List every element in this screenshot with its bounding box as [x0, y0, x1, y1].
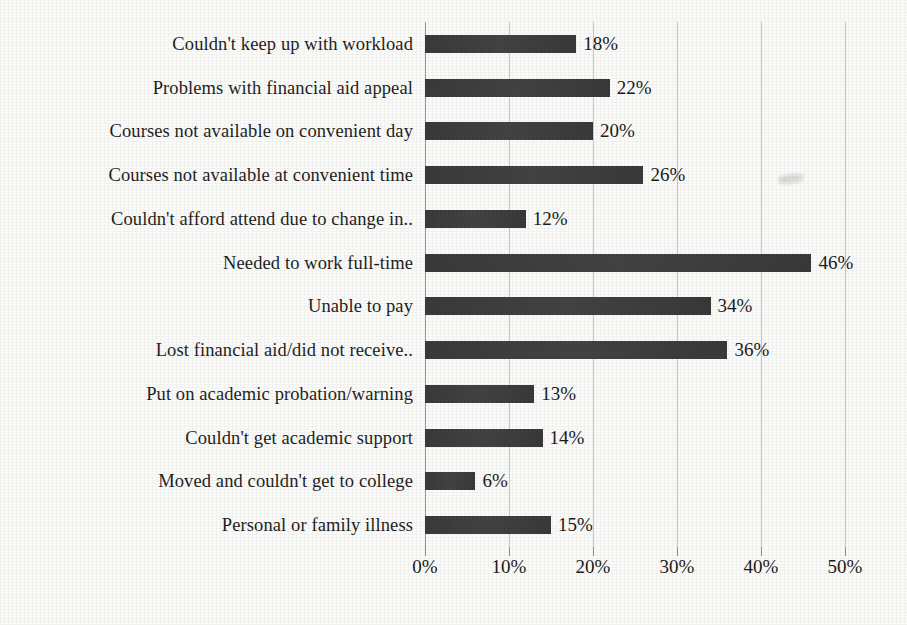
chart-figure: Couldn't keep up with workload18%Problem…: [0, 0, 907, 625]
bar-container: 34%: [425, 285, 752, 329]
x-tick-label: 40%: [744, 556, 779, 578]
bar-rows: Couldn't keep up with workload18%Problem…: [0, 22, 907, 547]
bar: [425, 297, 711, 315]
bar-row: Unable to pay34%: [0, 285, 907, 329]
bar-row: Couldn't get academic support14%: [0, 416, 907, 460]
bar: [425, 472, 475, 490]
bar: [425, 166, 643, 184]
x-tick-label: 20%: [576, 556, 611, 578]
bar-value-label: 36%: [734, 339, 769, 361]
bar-container: 18%: [425, 22, 618, 66]
tick-mark-10: [509, 547, 510, 556]
bar: [425, 254, 811, 272]
bar-row: Lost financial aid/did not receive..36%: [0, 328, 907, 372]
tick-mark-40: [761, 547, 762, 556]
bar: [425, 79, 610, 97]
category-label: Needed to work full-time: [0, 253, 413, 273]
x-tick-label: 50%: [828, 556, 863, 578]
tick-mark-50: [845, 547, 846, 556]
bar-row: Courses not available on convenient day2…: [0, 110, 907, 154]
category-label: Couldn't keep up with workload: [0, 34, 413, 54]
category-label: Unable to pay: [0, 296, 413, 316]
bar-container: 15%: [425, 503, 593, 547]
bar-row: Personal or family illness15%: [0, 503, 907, 547]
bar-container: 36%: [425, 328, 769, 372]
bar-value-label: 13%: [541, 383, 576, 405]
category-label: Lost financial aid/did not receive..: [0, 340, 413, 360]
bar-container: 12%: [425, 197, 568, 241]
category-label: Put on academic probation/warning: [0, 384, 413, 404]
bar: [425, 35, 576, 53]
bar-value-label: 22%: [617, 77, 652, 99]
bar-container: 22%: [425, 66, 652, 110]
x-tick-label: 30%: [660, 556, 695, 578]
category-label: Problems with financial aid appeal: [0, 78, 413, 98]
tick-mark-20: [593, 547, 594, 556]
bar-container: 13%: [425, 372, 576, 416]
bar-value-label: 15%: [558, 514, 593, 536]
x-axis: 0%10%20%30%40%50%: [425, 556, 845, 586]
bar-value-label: 46%: [818, 252, 853, 274]
x-tick-label: 0%: [412, 556, 437, 578]
bar: [425, 210, 526, 228]
tick-mark-30: [677, 547, 678, 556]
bar-row: Couldn't afford attend due to change in.…: [0, 197, 907, 241]
bar-row: Put on academic probation/warning13%: [0, 372, 907, 416]
bar-value-label: 12%: [533, 208, 568, 230]
x-tick-label: 10%: [492, 556, 527, 578]
bar: [425, 385, 534, 403]
bar-row: Courses not available at convenient time…: [0, 153, 907, 197]
category-label: Courses not available on convenient day: [0, 121, 413, 141]
bar: [425, 516, 551, 534]
category-label: Moved and couldn't get to college: [0, 471, 413, 491]
bar: [425, 122, 593, 140]
tick-mark-0: [425, 547, 426, 556]
bar-value-label: 34%: [718, 295, 753, 317]
bar-row: Moved and couldn't get to college6%: [0, 460, 907, 504]
bar-row: Problems with financial aid appeal22%: [0, 66, 907, 110]
bar-value-label: 14%: [550, 427, 585, 449]
bar-value-label: 26%: [650, 164, 685, 186]
category-label: Courses not available at convenient time: [0, 165, 413, 185]
category-label: Couldn't get academic support: [0, 428, 413, 448]
bar-value-label: 18%: [583, 33, 618, 55]
bar: [425, 429, 543, 447]
category-label: Couldn't afford attend due to change in.…: [0, 209, 413, 229]
bar-container: 26%: [425, 153, 685, 197]
category-label: Personal or family illness: [0, 515, 413, 535]
bar-container: 46%: [425, 241, 853, 285]
bar-container: 6%: [425, 460, 508, 504]
bar-value-label: 6%: [482, 470, 507, 492]
bar-row: Couldn't keep up with workload18%: [0, 22, 907, 66]
bar-value-label: 20%: [600, 120, 635, 142]
bar-container: 14%: [425, 416, 584, 460]
bar-row: Needed to work full-time46%: [0, 241, 907, 285]
bar-container: 20%: [425, 110, 635, 154]
bar: [425, 341, 727, 359]
